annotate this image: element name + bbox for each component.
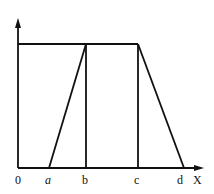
tick-label-d: d (177, 173, 183, 187)
tick-label-c: c (134, 173, 139, 187)
tick-label-a: a (45, 173, 51, 187)
y-axis-arrow-icon (15, 18, 21, 28)
x-axis-arrow-icon (194, 165, 204, 171)
falling-edge (138, 44, 184, 168)
tick-label-b: b (82, 173, 88, 187)
origin-label: 0 (15, 173, 21, 187)
trapezoid-membership-diagram: 0 a b c d X (0, 0, 214, 194)
rising-edge (49, 44, 86, 168)
x-axis-label: X (193, 173, 202, 187)
